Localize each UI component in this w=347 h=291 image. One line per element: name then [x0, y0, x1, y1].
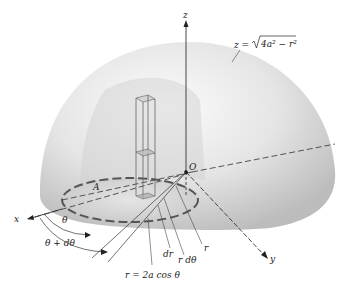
- r-label: r: [204, 243, 209, 253]
- y-axis-label: y: [269, 254, 276, 264]
- theta-arc-arrow-icon: [85, 232, 91, 238]
- region-a-label: A: [92, 182, 100, 192]
- theta-dtheta-arc-arrow-icon: [101, 249, 108, 255]
- x-axis-label: x: [14, 214, 19, 224]
- z-axis-label: z: [182, 10, 188, 20]
- origin-label: O: [189, 162, 197, 172]
- y-arrow-icon: [261, 251, 268, 259]
- surface-eq-radicand: 4a² − r²: [260, 39, 297, 49]
- dr-label: dr: [163, 249, 174, 259]
- boundary-eq-label: r = 2a cos θ: [125, 270, 180, 280]
- hemisphere-diagram: z x y O θ θ + dθ dr r dθ r r = 2a cos θ …: [0, 0, 347, 291]
- theta-dtheta-label: θ + dθ: [45, 238, 75, 248]
- r-dtheta-label: r dθ: [178, 255, 197, 265]
- surface-eq-lhs: z =: [233, 40, 249, 50]
- z-arrow-icon: [184, 20, 189, 27]
- theta-label: θ: [62, 215, 68, 225]
- x-arrow-icon: [27, 215, 34, 220]
